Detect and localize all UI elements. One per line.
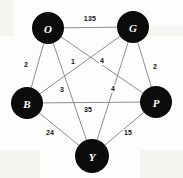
graph-node-o[interactable]: O xyxy=(32,12,64,44)
node-label-g: G xyxy=(129,22,137,34)
edge-weight-g-b: 4 xyxy=(99,57,105,65)
graph-edge-b-p xyxy=(42,102,141,103)
graph-node-p[interactable]: P xyxy=(140,86,172,118)
graph-diagram-canvas: OGBPY 135214234352415 xyxy=(0,0,183,178)
graph-edge-o-b xyxy=(31,42,44,88)
graph-node-b[interactable]: B xyxy=(11,87,43,119)
edge-weight-o-p: 1 xyxy=(70,58,76,66)
graph-svg: OGBPY xyxy=(0,0,183,178)
edge-weight-b-p: 35 xyxy=(83,106,93,114)
edge-weight-o-y: 3 xyxy=(59,86,65,94)
edge-weight-p-y: 15 xyxy=(123,129,133,137)
node-label-p: P xyxy=(153,97,160,109)
edge-weight-g-y: 4 xyxy=(110,85,116,93)
edge-weight-o-b: 2 xyxy=(23,61,29,69)
edge-weight-b-y: 24 xyxy=(45,129,55,137)
graph-edge-o-g xyxy=(63,27,118,28)
graph-node-y[interactable]: Y xyxy=(75,139,109,173)
node-label-b: B xyxy=(22,98,30,110)
graph-node-g[interactable]: G xyxy=(117,11,149,43)
edge-weight-o-g: 135 xyxy=(83,15,97,23)
node-layer: OGBPY xyxy=(11,11,172,173)
graph-edge-o-y xyxy=(53,42,87,141)
graph-edge-g-p xyxy=(137,41,151,87)
graph-edge-g-b xyxy=(39,36,121,95)
node-label-o: O xyxy=(44,23,52,35)
edge-weight-g-p: 2 xyxy=(152,63,158,71)
